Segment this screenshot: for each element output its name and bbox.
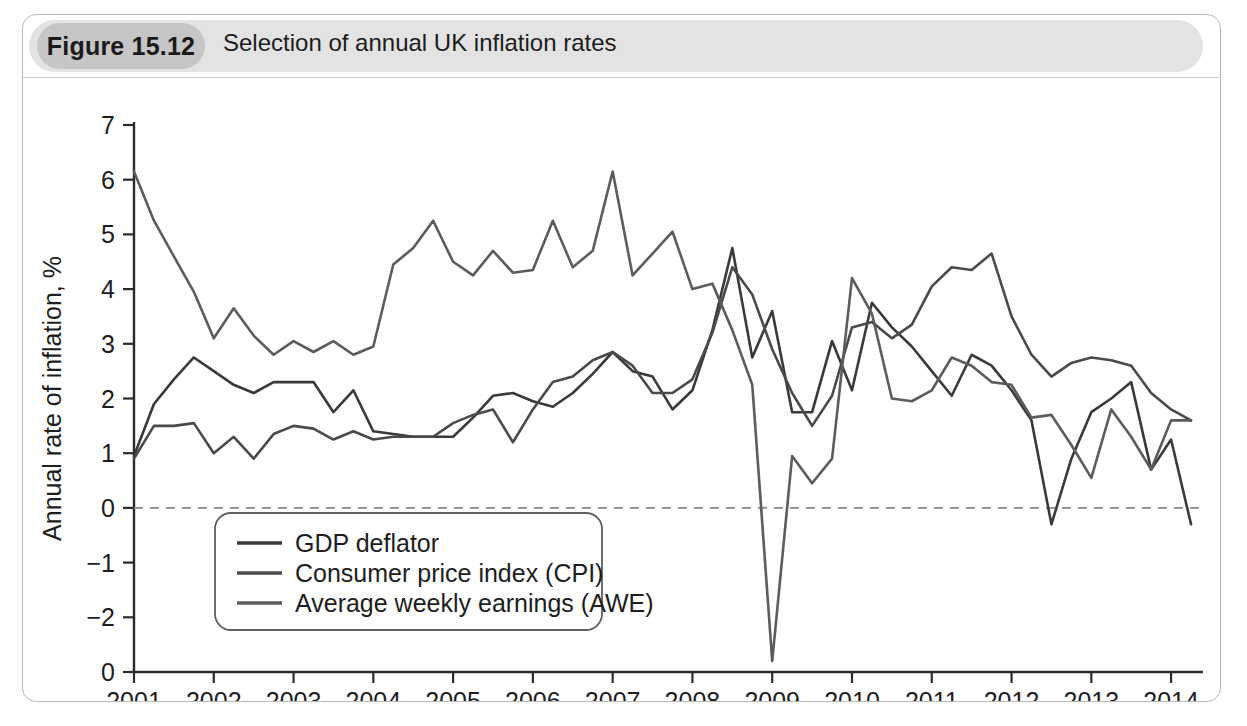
- y-tick-label: 5: [101, 220, 115, 248]
- y-axis-ticks: 76543210−1−20: [86, 111, 134, 686]
- plot-region: 76543210−1−20 20012002200320042005200620…: [23, 78, 1219, 701]
- x-tick-label: 2010: [824, 687, 880, 701]
- figure-caption: Selection of annual UK inflation rates: [223, 29, 617, 57]
- legend-label-1: Consumer price index (CPI): [295, 559, 603, 587]
- y-tick-label: −2: [86, 603, 115, 631]
- x-tick-label: 2003: [266, 687, 322, 701]
- x-tick-label: 2014: [1143, 687, 1199, 701]
- y-tick-label: 0: [101, 494, 115, 522]
- y-tick-label: 2: [101, 385, 115, 413]
- x-tick-label: 2011: [905, 687, 959, 701]
- line-chart: 76543210−1−20 20012002200320042005200620…: [23, 78, 1219, 701]
- x-tick-label: 2004: [346, 687, 402, 701]
- x-tick-label: 2002: [186, 687, 242, 701]
- y-tick-label: 6: [101, 166, 115, 194]
- figure-number-badge: Figure 15.12: [37, 23, 205, 69]
- y-tick-label: 7: [101, 111, 115, 139]
- x-tick-label: 2001: [106, 687, 162, 701]
- x-tick-label: 2008: [665, 687, 721, 701]
- x-tick-label: 2013: [1064, 687, 1120, 701]
- y-tick-label: −1: [86, 549, 115, 577]
- chart-legend: GDP deflatorConsumer price index (CPI)Av…: [215, 513, 653, 630]
- y-tick-label: 3: [101, 330, 115, 358]
- y-tick-label: 0: [101, 658, 115, 686]
- y-tick-label: 1: [101, 439, 115, 467]
- y-axis-title: Annual rate of inflation, %: [38, 256, 66, 541]
- screenshot-root: Figure 15.12 Selection of annual UK infl…: [0, 0, 1247, 726]
- x-tick-label: 2009: [744, 687, 800, 701]
- y-axis-title-text: Annual rate of inflation, %: [38, 256, 66, 541]
- series-line-0: [134, 248, 1191, 524]
- y-tick-label: 4: [101, 275, 115, 303]
- x-tick-label: 2007: [585, 687, 641, 701]
- x-axis-ticks: 2001200220032004200520062007200820092010…: [106, 672, 1199, 701]
- figure-header: Figure 15.12 Selection of annual UK infl…: [23, 15, 1219, 77]
- x-tick-label: 2005: [425, 687, 481, 701]
- figure-number-label: Figure 15.12: [37, 23, 205, 69]
- legend-label-2: Average weekly earnings (AWE): [295, 589, 653, 617]
- x-tick-label: 2012: [984, 687, 1040, 701]
- figure-panel: Figure 15.12 Selection of annual UK infl…: [22, 14, 1221, 702]
- legend-label-0: GDP deflator: [295, 529, 439, 557]
- x-tick-label: 2006: [505, 687, 561, 701]
